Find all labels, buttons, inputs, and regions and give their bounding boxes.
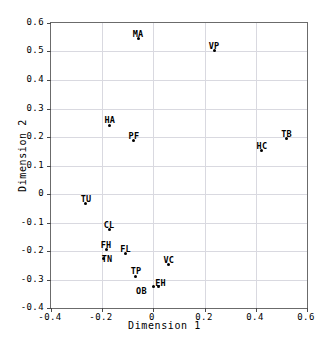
y-tick-mark bbox=[47, 223, 51, 224]
data-point-label: TN bbox=[102, 255, 113, 264]
y-tick-label: 0.6 bbox=[4, 17, 44, 27]
data-point-label: VC bbox=[163, 256, 174, 265]
data-point-label: FL bbox=[120, 245, 131, 254]
y-tick-mark bbox=[47, 166, 51, 167]
y-tick-mark bbox=[47, 137, 51, 138]
gridline-horizontal bbox=[51, 80, 307, 81]
y-tick-mark bbox=[47, 80, 51, 81]
y-tick-mark bbox=[47, 194, 51, 195]
gridline-horizontal bbox=[51, 109, 307, 110]
y-tick-label: -0.3 bbox=[4, 274, 44, 284]
x-axis-label: Dimension 1 bbox=[0, 320, 329, 331]
data-point-label: EH bbox=[155, 279, 166, 288]
y-axis-label: Dimension 2 bbox=[17, 56, 28, 256]
scatter-plot-screenshot: MAVPHAPFTBHCTUCLFHFLTNVCTPOBEH -0.4-0.20… bbox=[0, 0, 329, 339]
gridline-horizontal bbox=[51, 137, 307, 138]
y-tick-label: -0.4 bbox=[4, 302, 44, 312]
data-point-label: TU bbox=[81, 195, 92, 204]
y-tick-mark bbox=[47, 23, 51, 24]
y-tick-mark bbox=[47, 109, 51, 110]
data-point-label: OB bbox=[136, 287, 147, 296]
y-tick-mark bbox=[47, 308, 51, 309]
gridline-horizontal bbox=[51, 251, 307, 252]
y-tick-mark bbox=[47, 251, 51, 252]
gridline-horizontal bbox=[51, 51, 307, 52]
gridline-horizontal bbox=[51, 223, 307, 224]
data-point-label: VP bbox=[209, 42, 220, 51]
y-tick-mark bbox=[47, 280, 51, 281]
data-point-label: PF bbox=[129, 132, 140, 141]
data-point-label: CL bbox=[104, 221, 115, 230]
plot-area: MAVPHAPFTBHCTUCLFHFLTNVCTPOBEH bbox=[50, 22, 308, 309]
data-point-label: TP bbox=[131, 267, 142, 276]
data-point-label: TB bbox=[281, 130, 292, 139]
data-point-label: MA bbox=[133, 30, 144, 39]
data-point-label: HC bbox=[257, 142, 268, 151]
gridline-horizontal bbox=[51, 166, 307, 167]
data-point-label: HA bbox=[105, 116, 116, 125]
y-tick-label: 0.5 bbox=[4, 45, 44, 55]
gridline-horizontal bbox=[51, 280, 307, 281]
data-point-label: FH bbox=[101, 241, 112, 250]
y-tick-mark bbox=[47, 51, 51, 52]
